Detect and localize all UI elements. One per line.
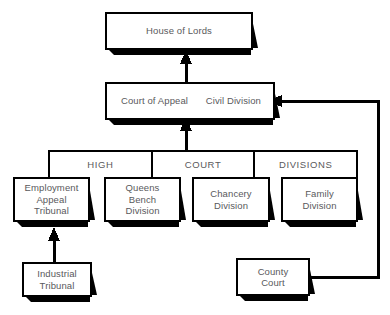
node-employment-appeal-tribunal-label: Employment Appeal Tribunal <box>22 182 82 217</box>
court-hierarchy-diagram: House of Lords Court of Appeal Civil Div… <box>0 0 390 315</box>
node-employment-appeal-tribunal[interactable]: Employment Appeal Tribunal <box>13 177 90 222</box>
arrowhead-to-employment-appeal-tribunal <box>48 227 60 241</box>
node-court-of-appeal-label: Court of Appeal <box>121 95 188 107</box>
band-cell-court: COURT <box>153 152 256 177</box>
node-queens-bench-division[interactable]: Queens Bench Division <box>104 177 181 222</box>
node-county-court[interactable]: County Court <box>236 258 310 296</box>
node-house-of-lords[interactable]: House of Lords <box>105 12 253 50</box>
node-family-division-label: Family Division <box>299 188 339 211</box>
high-court-divisions-band: HIGH COURT DIVISIONS <box>48 150 358 177</box>
node-chancery-division-label: Chancery Division <box>207 188 254 211</box>
node-family-division[interactable]: Family Division <box>281 177 358 222</box>
node-civil-division-label: Civil Division <box>206 95 261 107</box>
band-cell-high: HIGH <box>50 152 153 177</box>
node-county-court-label: County Court <box>255 266 292 289</box>
band-cell-divisions: DIVISIONS <box>255 152 356 177</box>
node-house-of-lords-label: House of Lords <box>143 25 215 37</box>
node-industrial-tribunal-label: Industrial Tribunal <box>34 268 80 291</box>
node-chancery-division[interactable]: Chancery Division <box>192 177 270 222</box>
node-court-of-appeal[interactable]: Court of Appeal Civil Division <box>105 82 275 120</box>
node-queens-bench-division-label: Queens Bench Division <box>122 182 162 217</box>
node-industrial-tribunal[interactable]: Industrial Tribunal <box>22 262 92 297</box>
